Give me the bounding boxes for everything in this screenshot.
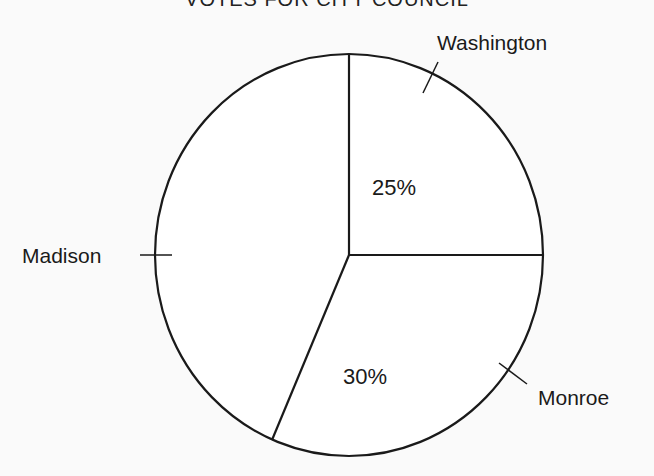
label-monroe: Monroe xyxy=(538,386,609,409)
pct-monroe: 30% xyxy=(343,364,387,389)
label-washington: Washington xyxy=(437,31,547,54)
pct-washington: 25% xyxy=(372,175,416,200)
label-madison: Madison xyxy=(22,244,101,267)
pie-chart: Washington Monroe Madison 25% 30% xyxy=(0,0,654,476)
